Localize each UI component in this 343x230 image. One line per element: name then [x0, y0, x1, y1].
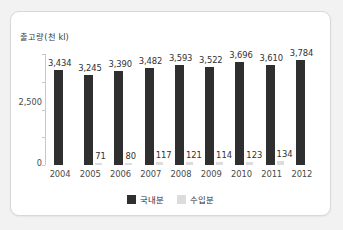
bar-domestic[interactable]	[84, 75, 93, 165]
bar-value-label-import: 123	[246, 150, 262, 160]
bar-value-label-domestic: 3,610	[260, 53, 283, 63]
bar-import[interactable]	[277, 161, 284, 165]
bar-import[interactable]	[156, 162, 163, 165]
bar-import[interactable]	[95, 163, 102, 165]
legend-item[interactable]: 수입분	[177, 193, 214, 205]
bar-domestic[interactable]	[145, 68, 154, 165]
bar-value-label-domestic: 3,482	[139, 56, 162, 66]
y-axis-tick-2	[42, 110, 45, 111]
bar-domestic[interactable]	[235, 62, 244, 165]
chart-legend: 국내분수입분	[11, 193, 330, 205]
bar-value-label-import: 80	[125, 151, 136, 161]
plot-area: 2,500 0 3,4343,245713,390803,4821173,593…	[45, 54, 317, 165]
x-axis-label: 2005	[75, 169, 105, 179]
bar-value-label-domestic: 3,245	[78, 63, 101, 73]
bar-import[interactable]	[186, 162, 193, 165]
y-axis-tick-label-2500: 2,500	[17, 97, 42, 107]
bar-value-label-domestic: 3,522	[199, 55, 222, 65]
bar-domestic[interactable]	[205, 67, 214, 165]
x-axis-label: 2009	[196, 169, 226, 179]
bar-value-label-import: 117	[156, 150, 172, 160]
x-axis-label: 2007	[136, 169, 166, 179]
legend-swatch-icon	[177, 195, 186, 204]
legend-label: 수입분	[190, 193, 214, 205]
chart-card: 출고량(천 kl) 2,500 0 3,4343,245713,390803,4…	[10, 11, 331, 216]
y-axis-tick-4	[42, 54, 45, 55]
bar-import[interactable]	[125, 163, 132, 165]
bar-value-label-domestic: 3,593	[169, 53, 192, 63]
legend-item[interactable]: 국내분	[127, 193, 164, 205]
x-axis-label: 2012	[287, 169, 317, 179]
y-axis-line	[45, 54, 46, 165]
legend-swatch-icon	[127, 195, 136, 204]
bar-value-label-domestic: 3,434	[48, 58, 71, 68]
x-axis-label: 2010	[226, 169, 256, 179]
bar-domestic[interactable]	[54, 70, 63, 165]
bar-value-label-import: 134	[277, 149, 293, 159]
bar-value-label-domestic: 3,696	[229, 50, 252, 60]
bar-value-label-import: 114	[216, 150, 232, 160]
bar-value-label-import: 71	[95, 151, 106, 161]
x-axis-label: 2004	[45, 169, 75, 179]
x-axis-label: 2006	[105, 169, 135, 179]
bar-domestic[interactable]	[266, 65, 275, 165]
bar-value-label-import: 121	[186, 150, 202, 160]
x-axis-label: 2008	[166, 169, 196, 179]
y-axis-title: 출고량(천 kl)	[20, 30, 69, 42]
y-axis-tick-label-0: 0	[17, 158, 42, 168]
legend-label: 국내분	[140, 193, 164, 205]
bar-import[interactable]	[216, 162, 223, 165]
bar-value-label-domestic: 3,390	[108, 59, 131, 69]
y-axis-tick-1	[42, 137, 45, 138]
y-axis-tick-0	[42, 165, 45, 166]
bar-value-label-domestic: 3,784	[290, 48, 313, 58]
bar-domestic[interactable]	[175, 65, 184, 165]
bar-domestic[interactable]	[296, 60, 305, 165]
bar-domestic[interactable]	[114, 71, 123, 165]
y-axis-tick-3	[42, 82, 45, 83]
bar-import[interactable]	[246, 162, 253, 165]
x-axis-label: 2011	[257, 169, 287, 179]
x-axis-labels: 200420052006200720082009201020112012	[45, 169, 317, 183]
